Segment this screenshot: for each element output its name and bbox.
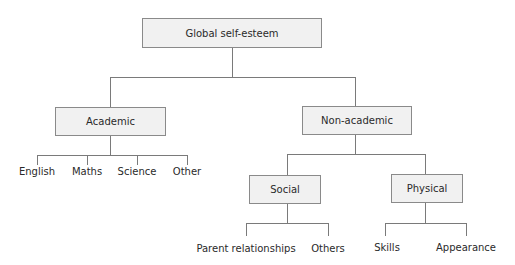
- connector: [187, 155, 188, 165]
- connector: [425, 154, 426, 174]
- node-label: Social: [270, 184, 300, 195]
- connector: [137, 155, 138, 165]
- leaf-maths: Maths: [72, 166, 102, 177]
- connector: [328, 223, 329, 236]
- node-label: Global self-esteem: [185, 28, 278, 39]
- connector: [110, 77, 356, 78]
- connector: [232, 48, 233, 77]
- leaf-english: English: [19, 166, 55, 177]
- connector: [287, 204, 288, 223]
- leaf-appearance: Appearance: [436, 242, 496, 253]
- node-social: Social: [249, 175, 321, 204]
- node-academic: Academic: [55, 107, 166, 136]
- connector: [246, 223, 329, 224]
- node-global-self-esteem: Global self-esteem: [142, 18, 322, 48]
- connector: [425, 203, 426, 223]
- leaf-others: Others: [311, 243, 345, 254]
- leaf-science: Science: [118, 166, 157, 177]
- connector: [37, 155, 38, 165]
- node-label: Academic: [86, 116, 135, 127]
- connector: [87, 155, 88, 165]
- connector: [466, 223, 467, 236]
- node-non-academic: Non-academic: [302, 106, 412, 135]
- node-physical: Physical: [391, 174, 463, 203]
- connector: [246, 223, 247, 236]
- leaf-skills: Skills: [374, 242, 400, 253]
- leaf-parent-relationships: Parent relationships: [196, 243, 295, 254]
- connector: [385, 223, 467, 224]
- connector: [385, 223, 386, 236]
- connector: [110, 136, 111, 155]
- connector: [355, 135, 356, 154]
- node-label: Physical: [407, 183, 448, 194]
- connector: [110, 77, 111, 107]
- connector: [287, 154, 288, 175]
- leaf-other: Other: [173, 166, 201, 177]
- node-label: Non-academic: [321, 115, 393, 126]
- connector: [355, 77, 356, 106]
- connector: [37, 155, 188, 156]
- connector: [287, 154, 426, 155]
